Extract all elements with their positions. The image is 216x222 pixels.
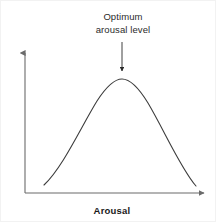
performance-curve [44,79,196,186]
optimum-arousal-annotation: Optimum arousal level [63,11,183,36]
annotation-line-1: Optimum [63,11,183,24]
annotation-line-2: arousal level [63,24,183,37]
arousal-performance-figure: Optimum arousal level Performance Arousa… [0,0,216,222]
x-axis-label: Arousal [57,205,167,216]
